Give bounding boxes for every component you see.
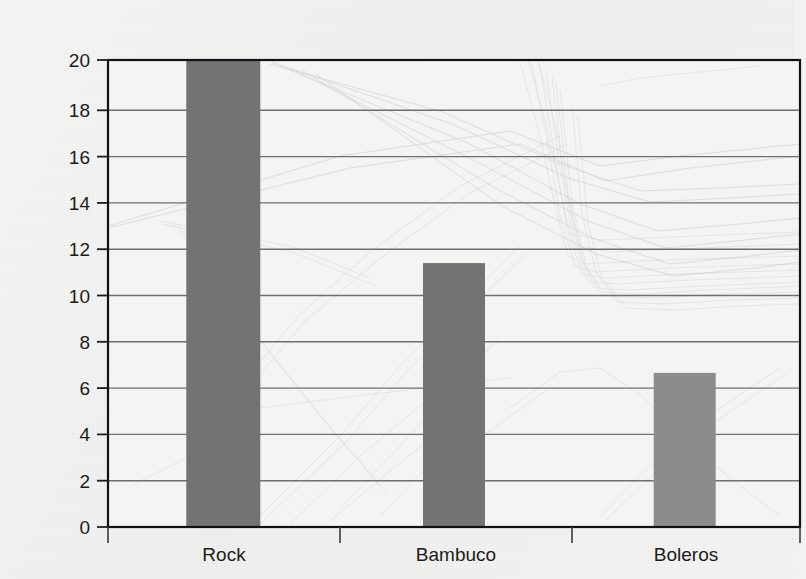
y-axis-tick-labels: 0 2 4 6 8 10 12 14 16 18 20 [69, 50, 91, 538]
y-tick-10: 10 [69, 286, 90, 307]
x-label-boleros: Boleros [654, 544, 718, 565]
y-tick-12: 12 [69, 239, 90, 260]
chart-canvas: 0 2 4 6 8 10 12 14 16 18 20 Rock Bambuco… [40, 16, 806, 579]
bar-boleros[interactable] [654, 373, 716, 527]
bar-bambuco[interactable] [423, 263, 485, 527]
y-tick-2: 2 [79, 471, 90, 492]
x-label-rock: Rock [202, 544, 246, 565]
x-axis-category-labels: Rock Bambuco Boleros [202, 544, 718, 565]
y-tick-20: 20 [69, 50, 90, 71]
x-label-bambuco: Bambuco [416, 544, 496, 565]
y-tick-8: 8 [79, 332, 90, 353]
y-tick-6: 6 [79, 378, 90, 399]
y-tick-18: 18 [69, 100, 90, 121]
y-tick-14: 14 [69, 193, 91, 214]
bar-chart-figure: 0 2 4 6 8 10 12 14 16 18 20 Rock Bambuco… [40, 16, 755, 563]
y-axis-ticks [97, 60, 108, 527]
x-axis-ticks [108, 527, 800, 543]
y-tick-16: 16 [69, 147, 90, 168]
y-tick-0: 0 [79, 517, 90, 538]
y-tick-4: 4 [79, 424, 90, 445]
bar-rock[interactable] [186, 60, 260, 527]
